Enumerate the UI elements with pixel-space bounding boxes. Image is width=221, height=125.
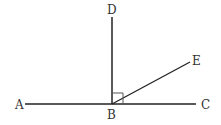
- label-d: D: [107, 3, 117, 17]
- label-c: C: [201, 98, 210, 112]
- line-be: [112, 62, 190, 104]
- geometry-diagram: A B C D E: [0, 0, 221, 125]
- label-b: B: [107, 108, 116, 122]
- label-a: A: [14, 98, 24, 112]
- label-e: E: [192, 54, 201, 68]
